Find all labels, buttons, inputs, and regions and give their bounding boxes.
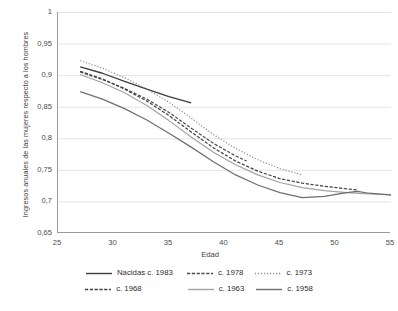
legend-row: Nacidas c. 1983c. 1978c. 1973 bbox=[86, 268, 312, 277]
legend-line-swatch-icon bbox=[255, 269, 281, 277]
legend-line-swatch-icon bbox=[256, 285, 282, 293]
legend-label: c. 1968 bbox=[116, 284, 142, 293]
series-line bbox=[80, 92, 391, 198]
legend-item[interactable]: Nacidas c. 1983 bbox=[86, 268, 173, 277]
legend-line-swatch-icon bbox=[187, 269, 213, 277]
legend-row: c. 1968c. 1963c. 1958 bbox=[85, 284, 313, 293]
x-axis-tick-label: 50 bbox=[320, 238, 350, 247]
y-axis-tick-label: 0,8 bbox=[8, 134, 52, 142]
x-axis-tick-label: 45 bbox=[264, 238, 294, 247]
y-axis-tick-label: 1 bbox=[8, 8, 52, 16]
legend-label: c. 1963 bbox=[219, 284, 245, 293]
x-axis-tick-label: 35 bbox=[153, 238, 183, 247]
y-axis-tick-label: 0,7 bbox=[8, 197, 52, 205]
x-axis-tick-label: 25 bbox=[42, 238, 72, 247]
legend-label: Nacidas c. 1983 bbox=[117, 268, 173, 277]
x-axis-tick-label: 55 bbox=[375, 238, 398, 247]
y-axis-tick-label: 0,75 bbox=[8, 166, 52, 174]
data-lines-layer bbox=[58, 12, 391, 233]
legend-label: c. 1973 bbox=[286, 268, 312, 277]
y-axis-tick-label: 0,65 bbox=[8, 229, 52, 237]
legend-label: c. 1958 bbox=[287, 284, 313, 293]
x-axis-tick-label: 40 bbox=[209, 238, 239, 247]
y-axis-tick-label: 0,95 bbox=[8, 40, 52, 48]
legend-item[interactable]: c. 1958 bbox=[256, 284, 313, 293]
legend-item[interactable]: c. 1973 bbox=[255, 268, 312, 277]
legend-line-swatch-icon bbox=[86, 269, 112, 277]
legend-item[interactable]: c. 1968 bbox=[85, 284, 142, 293]
x-axis-tick-label: 30 bbox=[98, 238, 128, 247]
legend-line-swatch-icon bbox=[188, 285, 214, 293]
legend-line-swatch-icon bbox=[85, 285, 111, 293]
x-axis-title-text: Edad bbox=[201, 250, 219, 259]
chart-figure: Ingresos anuales de las mujeres respecto… bbox=[0, 0, 398, 311]
y-axis-tick-label: 0,85 bbox=[8, 103, 52, 111]
y-axis-tick-label: 0,9 bbox=[8, 71, 52, 79]
chart-legend: Nacidas c. 1983c. 1978c. 1973c. 1968c. 1… bbox=[0, 268, 398, 293]
series-line bbox=[80, 75, 391, 195]
legend-item[interactable]: c. 1963 bbox=[188, 284, 245, 293]
series-line bbox=[80, 71, 358, 190]
y-axis-tick-labels: 0,650,70,750,80,850,90,951 bbox=[0, 0, 52, 311]
legend-item[interactable]: c. 1978 bbox=[187, 268, 244, 277]
plot-area bbox=[57, 12, 390, 233]
legend-label: c. 1978 bbox=[218, 268, 244, 277]
x-axis-title: Edad bbox=[0, 250, 398, 259]
